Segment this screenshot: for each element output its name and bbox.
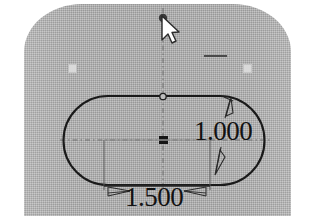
sketch-point-top[interactable] xyxy=(160,93,166,99)
horizontal-dimension-value[interactable]: 1.500 xyxy=(125,182,183,212)
centerlines xyxy=(60,8,270,196)
cad-sketch-screenshot: 1.000 1.500 xyxy=(0,0,310,221)
horizontal-dimension[interactable]: 1.500 xyxy=(104,182,210,212)
vertical-dimension-value[interactable]: 1.000 xyxy=(194,116,252,146)
vertical-dimension[interactable]: 1.000 xyxy=(194,97,252,175)
sketch-geometry-layer: 1.000 1.500 xyxy=(0,0,310,221)
